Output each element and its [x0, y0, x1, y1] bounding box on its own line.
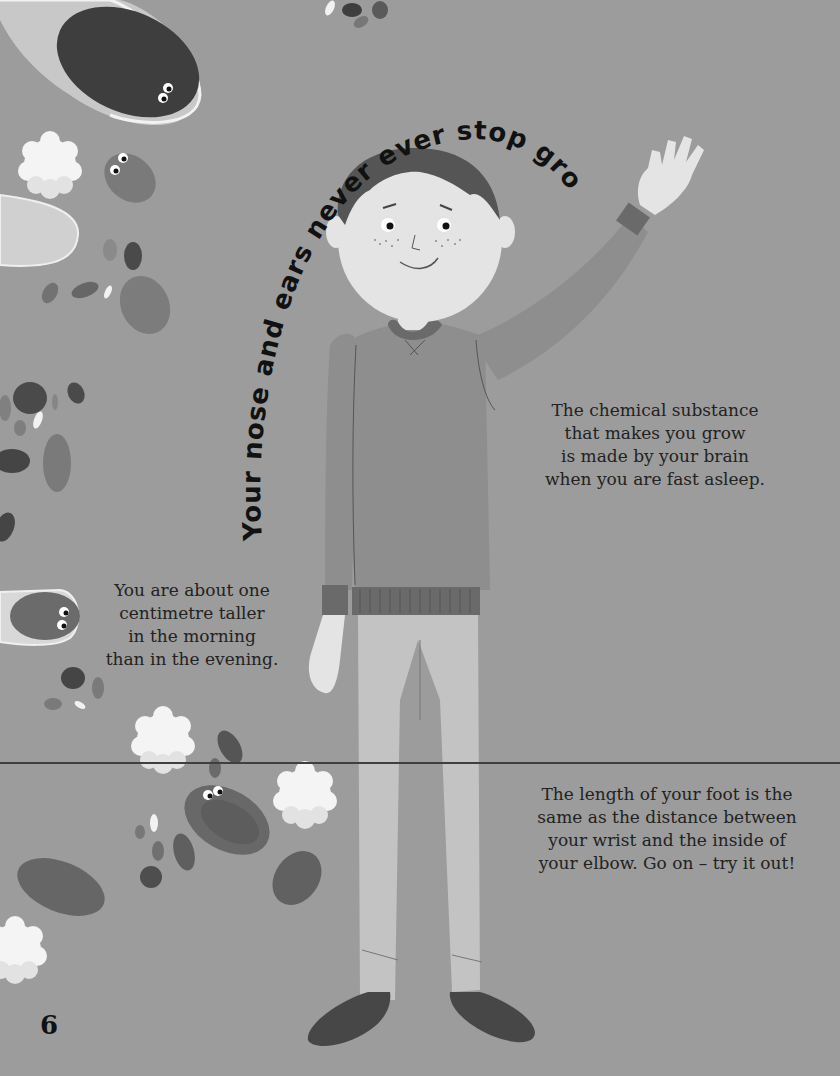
fluffy-cell — [273, 761, 337, 829]
cartoon-cell-left-middle — [0, 590, 80, 645]
book-page: Your nose and ears never ever stop growi… — [0, 0, 840, 1076]
fluffy-cell — [18, 131, 82, 199]
right-shoe — [450, 992, 535, 1042]
page-illustration: Your nose and ears never ever stop growi… — [0, 0, 840, 1076]
fact-taller-morning: You are about one centimetre taller in t… — [102, 579, 282, 671]
fluffy-cell — [0, 916, 47, 984]
fact-growth-hormone: The chemical substance that makes you gr… — [545, 399, 765, 491]
fact-foot-length: The length of your foot is the same as t… — [522, 783, 812, 875]
left-shoe — [308, 992, 391, 1046]
pale-cell — [0, 195, 78, 266]
boy-illustration — [308, 136, 704, 1046]
page-number: 6 — [40, 1010, 58, 1040]
big-cell-top-left — [0, 0, 217, 139]
horizontal-divider — [0, 762, 840, 764]
cartoon-cell-eyes — [94, 143, 165, 213]
sweater-waistband — [352, 587, 480, 615]
